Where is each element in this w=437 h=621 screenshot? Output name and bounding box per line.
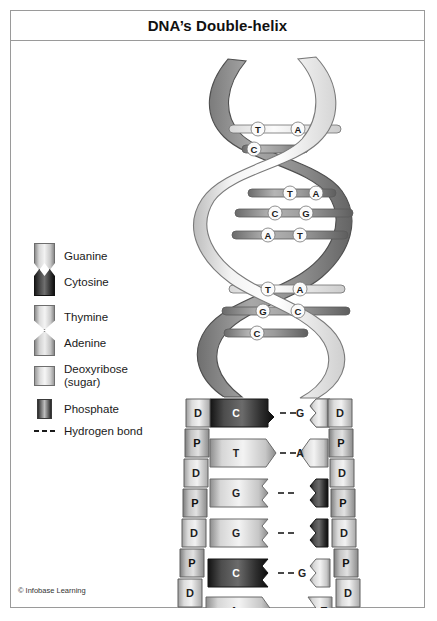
ladder-rung-6: A T [206,597,332,608]
guanine-swatch [34,243,55,270]
phosphate-swatch [37,399,52,419]
ladder-base-1-left: C [232,407,240,419]
ladder-base-6-right: T [321,605,328,608]
hydrogen-bond-swatch [34,426,55,436]
ladder-base-3-right: C [296,487,304,499]
backbone-right-unit-1: D [336,407,344,419]
deoxyribose-swatch [34,366,55,386]
legend-item-adenine: Adenine [34,331,106,356]
helix-base-2-left: C [251,144,258,155]
legend-item-guanine: Guanine [34,243,107,270]
backbone-left-unit-4: P [191,497,198,509]
ladder-rung-5: C G [208,559,330,587]
ladder-base-6-left: A [230,605,238,608]
helix-base-6-left: T [265,284,271,295]
helix-base-4-right: G [302,208,309,219]
ladder-base-4-right: C [296,527,304,539]
helix-base-8-left: C [254,328,261,339]
backbone-right-unit-7: D [344,587,352,599]
helix-base-4-left: C [272,208,279,219]
adenine-swatch [34,331,55,356]
figure-title-bar: DNA’s Double-helix [10,10,425,41]
helix-base-5-left: A [265,230,272,241]
backbone-right-unit-5: D [340,527,348,539]
backbone-right-unit-3: D [338,467,346,479]
backbone-left-unit-2: P [193,437,200,449]
helix-base-7-right: C [295,306,302,317]
legend-item-cytosine: Cytosine [34,269,109,296]
backbone-left-unit-1: D [194,407,202,419]
backbone-right-unit-6: P [342,557,349,569]
legend-label-deoxyribose-line1: Deoxyribose [64,363,128,375]
backbone-right-unit-2: P [337,437,344,449]
backbone-left-unit-6: P [188,557,195,569]
ladder-rung-4: G C [210,519,328,547]
backbone-left-unit-3: D [192,467,200,479]
helix-base-1-left: T [255,124,261,135]
legend-item-deoxyribose: Deoxyribose (sugar) [34,363,128,389]
ladder-base-5-left: C [232,567,240,579]
backbone-left-unit-7: D [186,587,194,599]
helix-base-5-right: T [297,230,303,241]
helix-base-1-right: A [295,124,302,135]
legend-item-phosphate: Phosphate [34,399,119,419]
legend-label-thymine: Thymine [64,311,108,324]
ladder-rung-1: C G [210,399,330,427]
cytosine-swatch [34,269,55,296]
ladder-base-2-left: T [233,447,240,459]
ladder-region: C G T [175,397,362,608]
copyright-notice: © Infobase Learning [18,586,86,595]
page-title: DNA’s Double-helix [148,17,288,34]
ladder-base-1-right: G [296,407,304,419]
helix-base-7-left: G [259,306,266,317]
legend-item-hydrogen-bond: Hydrogen bond [34,425,143,438]
legend-item-thymine: Thymine [34,305,108,330]
backbone-right-unit-4: P [339,497,346,509]
ladder-rung-2: T A [210,439,328,467]
helix-base-6-right: A [297,284,304,295]
legend-label-hydrogen-bond: Hydrogen bond [64,425,143,438]
ladder-rung-3: G C [210,479,328,507]
legend-label-cytosine: Cytosine [64,276,109,289]
legend-label-deoxyribose: Deoxyribose (sugar) [64,363,128,389]
legend-label-phosphate: Phosphate [64,403,119,416]
diagram-canvas: DNA’s Double-helix [0,0,437,621]
ladder-base-2-right: A [296,447,304,459]
legend-label-guanine: Guanine [64,250,107,263]
ladder-base-3-left: G [232,487,240,499]
thymine-swatch [34,305,55,330]
ladder-base-5-right: G [298,567,306,579]
backbone-left-unit-5: D [190,527,198,539]
legend-label-deoxyribose-line2: (sugar) [64,376,100,388]
legend-label-adenine: Adenine [64,337,106,350]
helix-base-3-right: A [313,188,320,199]
ladder-base-4-left: G [232,527,240,539]
helix-base-3-left: T [287,188,293,199]
helix-region: T A C T A C G A T [194,57,353,398]
